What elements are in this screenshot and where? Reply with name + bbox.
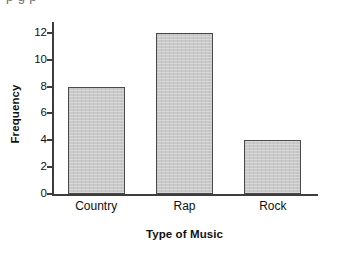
y-axis-title-label: Frequency [9, 84, 21, 143]
x-axis-tick-label: Rock [259, 199, 286, 213]
x-axis-title: Type of Music [52, 228, 317, 240]
y-axis-title: Frequency [6, 62, 24, 166]
x-axis-tick-label: Rap [173, 199, 195, 213]
x-axis-tick-labels: CountryRapRock [52, 199, 317, 219]
y-axis-tick-label: 10 [34, 54, 47, 66]
x-axis-tick-label: Country [75, 199, 117, 213]
bar [156, 33, 213, 194]
bars-layer [52, 22, 317, 194]
plot-area [52, 22, 317, 194]
bar [244, 140, 301, 194]
bar-chart-figure: Frequency 024681012 CountryRapRock Type … [0, 0, 340, 257]
y-axis-tick-labels: 024681012 [24, 0, 47, 257]
bar [68, 87, 125, 195]
y-axis-tick-label: 12 [34, 27, 47, 39]
x-axis-line [52, 194, 318, 196]
